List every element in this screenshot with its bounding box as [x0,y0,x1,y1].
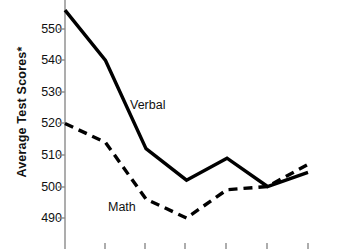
chart-container: Average Test Scores* 550 540 530 520 510… [0,0,337,249]
series-label-verbal: Verbal [130,98,165,112]
series-label-math: Math [108,200,136,214]
series-line-math [65,124,308,219]
series-line-verbal [65,10,308,186]
plot-area [0,0,337,249]
x-axis [105,243,308,249]
y-axis [58,0,65,249]
